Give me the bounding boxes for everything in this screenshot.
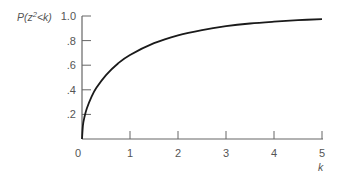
y-axis-title-main: P(z [17, 11, 34, 23]
y-tick-label: .8 [67, 35, 76, 47]
x-origin-label: 0 [75, 147, 81, 159]
axes [82, 16, 323, 139]
x-ticks: 12345 [127, 131, 325, 159]
y-tick-label: .6 [67, 59, 76, 71]
y-ticks: .2.4.6.81.0 [61, 10, 91, 120]
y-axis-title: P(z2<k) [17, 10, 52, 23]
x-tick-label: 1 [127, 147, 133, 159]
y-tick-label: 1.0 [61, 10, 76, 22]
x-tick-label: 2 [175, 147, 181, 159]
x-tick-label: 3 [223, 147, 229, 159]
chart: P(z2<k) .2.4.6.81.0 12345 0 k [0, 0, 341, 173]
y-tick-label: .4 [67, 84, 76, 96]
y-axis-title-rest: <k) [37, 11, 52, 23]
y-tick-label: .2 [67, 108, 76, 120]
cdf-curve [82, 19, 322, 139]
svg-text:P(z2<k): P(z2<k) [17, 10, 52, 23]
x-tick-label: 4 [271, 147, 277, 159]
x-tick-label: 5 [319, 147, 325, 159]
x-axis-title: k [318, 161, 324, 173]
